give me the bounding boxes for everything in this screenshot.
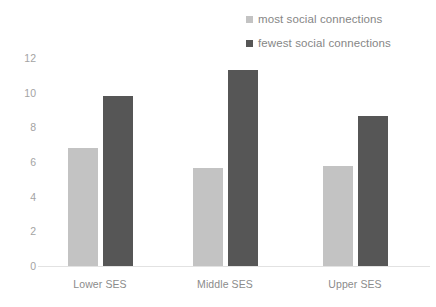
bar-chart: most social connections fewest social co… bbox=[0, 0, 436, 307]
bar-lower-ses-most[interactable] bbox=[68, 148, 98, 266]
x-tick-label-lower-ses: Lower SES bbox=[73, 278, 126, 290]
bar-upper-ses-most[interactable] bbox=[323, 166, 353, 266]
plot-area: 12 10 8 6 4 2 0 Lower SES Middle SES Upp… bbox=[0, 0, 436, 307]
bars-layer bbox=[0, 0, 436, 307]
x-tick-label-upper-ses: Upper SES bbox=[328, 278, 381, 290]
bar-upper-ses-fewest[interactable] bbox=[358, 116, 388, 266]
bar-middle-ses-fewest[interactable] bbox=[228, 70, 258, 266]
x-axis-labels: Lower SES Middle SES Upper SES bbox=[0, 278, 436, 294]
bar-middle-ses-most[interactable] bbox=[193, 168, 223, 266]
bar-lower-ses-fewest[interactable] bbox=[103, 96, 133, 266]
x-tick-label-middle-ses: Middle SES bbox=[197, 278, 253, 290]
